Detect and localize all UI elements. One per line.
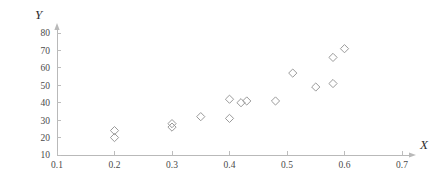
x-tick-label: 0.6: [339, 160, 351, 170]
tick-marks-group: [57, 33, 402, 155]
x-tick-label: 0.7: [396, 160, 408, 170]
y-tick-label: 20: [41, 133, 51, 143]
x-tick-label: 0.5: [281, 160, 293, 170]
x-tick-label: 0.4: [224, 160, 236, 170]
data-point-marker: [225, 95, 233, 103]
y-axis-title: Y: [35, 7, 44, 22]
axes-group: [54, 23, 416, 158]
scatter-plot-figure: 10203040506070800.10.20.30.40.50.60.7 YX: [0, 0, 435, 189]
x-tick-label: 0.3: [166, 160, 178, 170]
x-tick-label: 0.2: [109, 160, 121, 170]
y-tick-label: 70: [41, 46, 51, 56]
y-tick-label: 80: [41, 28, 51, 38]
data-point-marker: [329, 79, 337, 87]
data-point-marker: [197, 113, 205, 121]
data-points-group: [110, 45, 348, 142]
data-point-marker: [289, 69, 297, 77]
data-point-marker: [340, 45, 348, 53]
y-tick-label: 40: [41, 98, 51, 108]
y-axis-arrow-icon: [54, 23, 59, 30]
axis-titles-group: YX: [35, 7, 429, 152]
y-tick-label: 60: [41, 63, 51, 73]
data-point-marker: [312, 83, 320, 91]
chart-canvas: 10203040506070800.10.20.30.40.50.60.7 YX: [0, 0, 435, 189]
x-axis-arrow-icon: [409, 152, 416, 157]
data-point-marker: [225, 114, 233, 122]
y-tick-label: 10: [41, 150, 51, 160]
x-tick-label: 0.1: [51, 160, 63, 170]
data-point-marker: [271, 97, 279, 105]
data-point-marker: [329, 53, 337, 61]
y-tick-label: 30: [41, 116, 51, 126]
x-axis-title: X: [419, 137, 429, 152]
tick-labels-group: 10203040506070800.10.20.30.40.50.60.7: [41, 28, 409, 170]
y-tick-label: 50: [41, 81, 51, 91]
